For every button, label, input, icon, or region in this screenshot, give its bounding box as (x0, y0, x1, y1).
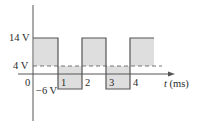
x-axis-label: t (ms) (164, 79, 189, 90)
pulse-fill-high-2 (82, 38, 106, 66)
tick-label-4: 4 (133, 78, 138, 89)
x-axis-unit: (ms) (170, 78, 189, 89)
pulse-fill-high-1 (34, 38, 58, 66)
x-axis-arrow-icon (168, 72, 175, 77)
tick-label-1: 1 (61, 78, 66, 89)
label-minus-6v: −6 V (36, 86, 57, 97)
label-14v: 14 V (9, 33, 30, 44)
waveform-canvas (0, 0, 197, 136)
tick-label-3: 3 (109, 78, 114, 89)
tick-label-2: 2 (85, 78, 90, 89)
x-axis-var: t (164, 78, 167, 89)
label-origin: 0 (25, 78, 30, 89)
pulse-fill-high-3 (130, 38, 154, 66)
label-4v: 4 V (13, 61, 28, 72)
